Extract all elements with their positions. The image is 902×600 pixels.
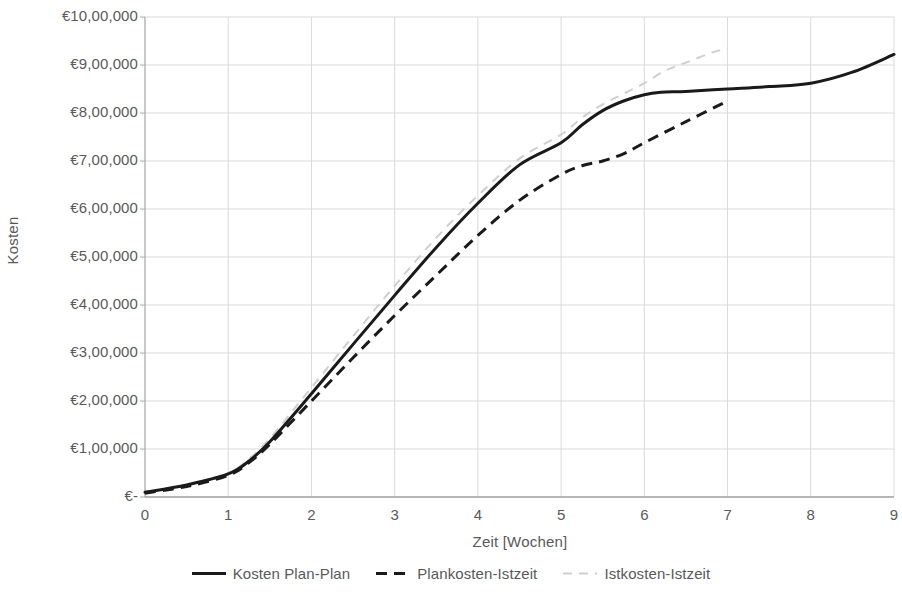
- legend-item[interactable]: Plankosten-Istzeit: [376, 566, 537, 581]
- legend-label: Istkosten-Istzeit: [604, 566, 710, 581]
- x-tick-label: 6: [624, 506, 664, 523]
- y-tick-label: €7,00,000: [18, 151, 138, 168]
- y-tick-label: €5,00,000: [18, 247, 138, 264]
- y-tick-label: €8,00,000: [18, 103, 138, 120]
- legend-label: Plankosten-Istzeit: [417, 566, 537, 581]
- series-line-2: [145, 48, 728, 492]
- x-axis-title: Zeit [Wochen]: [145, 533, 895, 550]
- x-tick-label: 7: [708, 506, 748, 523]
- legend-item[interactable]: Istkosten-Istzeit: [563, 566, 710, 581]
- legend-line-icon: [376, 568, 410, 579]
- legend-item[interactable]: Kosten Plan-Plan: [192, 566, 351, 581]
- x-tick-label: 9: [874, 506, 902, 523]
- x-tick-label: 0: [125, 506, 165, 523]
- series-line-0: [145, 54, 894, 492]
- y-tick-label: €4,00,000: [18, 295, 138, 312]
- chart-legend: Kosten Plan-PlanPlankosten-IstzeitIstkos…: [0, 566, 902, 581]
- legend-line-icon: [192, 568, 226, 579]
- y-tick-label: €-: [18, 487, 138, 504]
- series-line-1: [145, 101, 728, 493]
- y-tick-label: €2,00,000: [18, 391, 138, 408]
- y-tick-label: €10,00,000: [18, 7, 138, 24]
- y-tick-label: €3,00,000: [18, 343, 138, 360]
- x-tick-label: 5: [541, 506, 581, 523]
- x-tick-label: 1: [208, 506, 248, 523]
- x-tick-label: 4: [458, 506, 498, 523]
- y-tick-label: €6,00,000: [18, 199, 138, 216]
- x-tick-label: 8: [791, 506, 831, 523]
- y-axis-ticks: [140, 17, 145, 497]
- y-tick-label: €9,00,000: [18, 55, 138, 72]
- legend-line-icon: [563, 568, 597, 579]
- y-tick-label: €1,00,000: [18, 439, 138, 456]
- gridlines: [145, 17, 894, 497]
- x-tick-label: 2: [291, 506, 331, 523]
- x-tick-label: 3: [375, 506, 415, 523]
- legend-label: Kosten Plan-Plan: [233, 566, 351, 581]
- chart-container: Kosten Zeit [Wochen] €-€1,00,000€2,00,00…: [0, 0, 902, 600]
